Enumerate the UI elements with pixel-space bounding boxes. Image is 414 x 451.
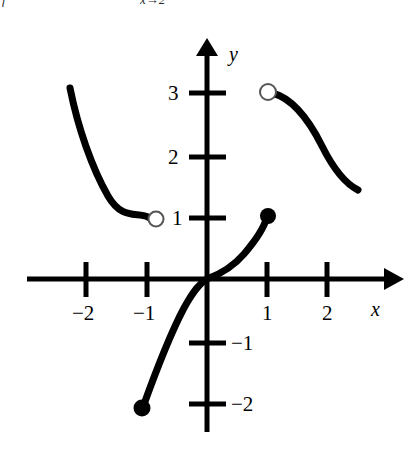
figure-root: f x→2 xyxy=(0,0,414,451)
y-axis-label: y xyxy=(229,44,238,64)
open-circle-1-3 xyxy=(260,84,276,100)
y-axis xyxy=(196,38,218,432)
closed-dot-1-1 xyxy=(260,208,276,224)
x-tick-label-2: 2 xyxy=(322,303,333,324)
curve-right-branch xyxy=(272,93,358,190)
y-tick-label--2: −2 xyxy=(231,394,253,415)
y-tick-label--1: −1 xyxy=(231,333,253,354)
open-circle-minus1-1 xyxy=(149,212,164,227)
x-axis-label: x xyxy=(371,299,380,319)
x-tick-label-1: 1 xyxy=(262,303,273,324)
y-axis-arrowhead xyxy=(196,38,218,56)
closed-dot-minus1-minus2 xyxy=(134,400,151,417)
function-graph xyxy=(0,0,414,451)
x-tick-label--1: −1 xyxy=(133,303,155,324)
x-tick-label--2: −2 xyxy=(72,303,94,324)
y-tick-label-2: 2 xyxy=(168,147,179,168)
y-tick-label-1: 1 xyxy=(172,208,183,229)
curve-left-branch xyxy=(70,88,152,219)
y-tick-label-3: 3 xyxy=(168,83,179,104)
x-axis-arrowhead xyxy=(384,268,404,290)
